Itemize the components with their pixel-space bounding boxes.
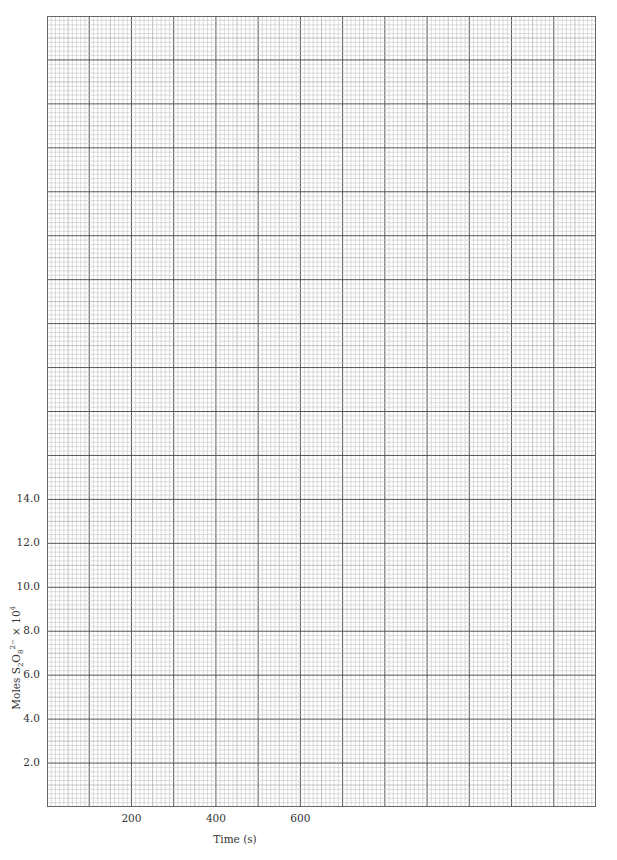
graph-paper-grid <box>47 16 596 807</box>
y-tick-label: 12.0 <box>6 536 40 548</box>
y-tick-label: 2.0 <box>6 756 40 768</box>
y-tick-label: 10.0 <box>6 580 40 592</box>
x-axis-title: Time (s) <box>205 833 265 845</box>
x-tick-label: 400 <box>196 812 236 824</box>
y-tick-label: 14.0 <box>6 492 40 504</box>
x-tick-label: 600 <box>280 812 320 824</box>
x-tick-label: 200 <box>111 812 151 824</box>
y-axis-title: Moles S2O82− × 104 <box>9 593 25 723</box>
